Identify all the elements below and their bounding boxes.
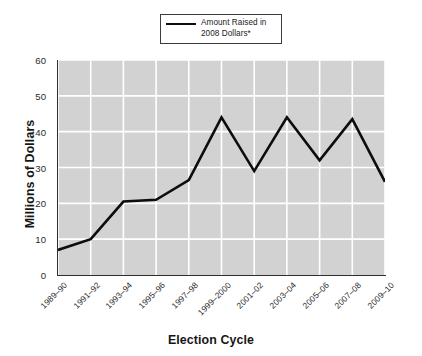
- x-tick-label: 1989–90: [38, 280, 69, 311]
- x-tick-label: 2003–04: [267, 280, 298, 311]
- x-tick-label: 2005–06: [300, 280, 331, 311]
- x-tick-label: 1995–96: [137, 280, 168, 311]
- x-tick-label: 1997–98: [169, 280, 200, 311]
- x-tick-label: 2001–02: [235, 280, 266, 311]
- x-tick-label: 2009–10: [365, 280, 396, 311]
- x-axis-tick-labels: 1989–901991–921993–941995–961997–981999–…: [0, 0, 422, 356]
- x-tick-label: 2007–08: [333, 280, 364, 311]
- x-tick-label: 1999–2000: [195, 280, 232, 317]
- x-tick-label: 1993–94: [104, 280, 135, 311]
- line-chart: Amount Raised in 2008 Dollars* 010203040…: [0, 0, 422, 356]
- x-tick-label: 1991–92: [71, 280, 102, 311]
- x-axis-title: Election Cycle: [0, 333, 422, 347]
